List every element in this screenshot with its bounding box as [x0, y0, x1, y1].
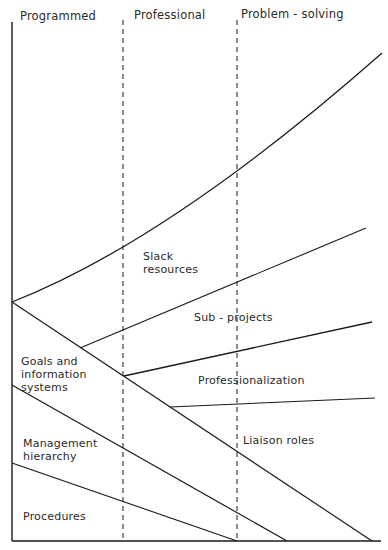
label-slack-line2: resources — [143, 263, 198, 276]
label-goals-and-information-systems: Goals and information systems — [21, 355, 87, 394]
liaison-upper-line — [170, 398, 375, 407]
label-goals-line1: Goals and — [21, 355, 87, 368]
label-goals-line2: information — [21, 368, 87, 381]
label-slack-resources: Slack resources — [143, 250, 198, 276]
column-header-problem-solving: Problem - solving — [241, 8, 344, 21]
label-goals-line3: systems — [21, 381, 87, 394]
label-procedures: Procedures — [23, 510, 86, 523]
label-professionalization: Professionalization — [198, 374, 305, 387]
column-header-professional: Professional — [134, 9, 206, 22]
label-management-hierarchy: Management hierarchy — [23, 437, 97, 463]
column-header-programmed: Programmed — [20, 10, 96, 23]
label-sub-projects: Sub - projects — [194, 311, 273, 324]
label-liaison-roles: Liaison roles — [243, 434, 314, 447]
liaison-diagonal — [12, 302, 372, 541]
professionalization-line — [124, 322, 372, 376]
procedures-line — [12, 463, 237, 541]
label-management-line2: hierarchy — [23, 450, 97, 463]
label-management-line1: Management — [23, 437, 97, 450]
label-slack-line1: Slack — [143, 250, 198, 263]
